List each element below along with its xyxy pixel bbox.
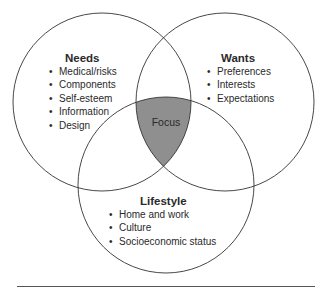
list-item: Self-esteem [48, 92, 117, 105]
lifestyle-group: Lifestyle Home and work Culture Socioeco… [108, 194, 216, 248]
wants-list: Preferences Interests Expectations [206, 65, 274, 105]
list-item: Components [48, 78, 117, 91]
needs-list: Medical/risks Components Self-esteem Inf… [48, 65, 117, 132]
bottom-divider [17, 286, 315, 287]
list-item: Design [48, 119, 117, 132]
lifestyle-list: Home and work Culture Socioeconomic stat… [108, 208, 216, 248]
list-item: Socioeconomic status [108, 235, 216, 248]
wants-title: Wants [206, 51, 274, 65]
list-item: Expectations [206, 92, 274, 105]
wants-group: Wants Preferences Interests Expectations [206, 51, 274, 105]
list-item: Home and work [108, 208, 216, 221]
needs-group: Needs Medical/risks Components Self-este… [48, 51, 117, 132]
list-item: Culture [108, 221, 216, 234]
list-item: Interests [206, 78, 274, 91]
focus-label: Focus [149, 116, 183, 128]
list-item: Medical/risks [48, 65, 117, 78]
needs-title: Needs [48, 51, 117, 65]
list-item: Information [48, 105, 117, 118]
lifestyle-title: Lifestyle [108, 194, 216, 208]
list-item: Preferences [206, 65, 274, 78]
